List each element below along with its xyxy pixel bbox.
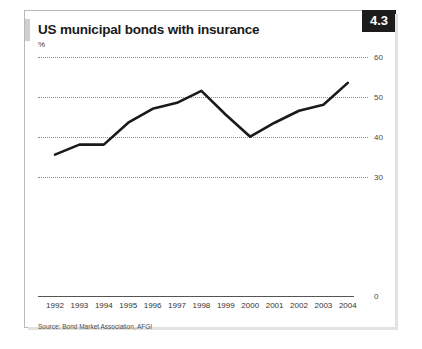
x-tick-label-1994: 1994	[95, 301, 113, 310]
chart-title: US municipal bonds with insurance	[38, 22, 259, 37]
y-axis-unit-label: %	[38, 40, 45, 49]
title-accent-rule	[25, 19, 30, 41]
x-tick-label-1997: 1997	[168, 301, 186, 310]
x-tick-label-1992: 1992	[46, 301, 64, 310]
figure-container: US municipal bonds with insurance % 4.3 …	[0, 0, 422, 349]
x-tick-label-1998: 1998	[192, 301, 210, 310]
x-tick-label-1995: 1995	[119, 301, 137, 310]
data-line-svg	[38, 51, 384, 297]
source-note: Source: Bond Market Association, AFGI	[38, 323, 152, 330]
x-tick-label-2004: 2004	[339, 301, 357, 310]
x-tick-label-1996: 1996	[144, 301, 162, 310]
plot-area: 605040300	[38, 51, 384, 297]
x-tick-label-2001: 2001	[266, 301, 284, 310]
figure-number-badge: 4.3	[362, 10, 396, 32]
x-tick-label-1993: 1993	[70, 301, 88, 310]
figure-card: US municipal bonds with insurance % 4.3 …	[24, 10, 396, 328]
series-line-us-municipal-bonds	[55, 83, 348, 155]
x-axis-tick-labels: 1992199319941995199619971998199920002001…	[38, 301, 384, 313]
x-tick-label-2002: 2002	[290, 301, 308, 310]
x-tick-label-1999: 1999	[217, 301, 235, 310]
x-tick-label-2000: 2000	[241, 301, 259, 310]
x-tick-label-2003: 2003	[314, 301, 332, 310]
